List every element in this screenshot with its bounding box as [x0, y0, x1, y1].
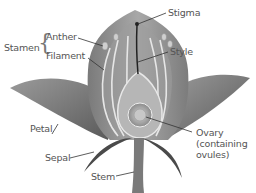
label-stigma: Stigma [168, 8, 200, 18]
sepal-left [84, 138, 132, 172]
flower-illustration [0, 0, 256, 193]
label-petal: Petal [30, 124, 52, 134]
label-stamen: Stamen [4, 43, 40, 53]
label-sepal: Sepal [45, 153, 70, 163]
label-filament: Filament [46, 51, 85, 61]
label-ovary-containing: (containing [196, 139, 247, 149]
label-style: Style [170, 47, 193, 57]
label-anther: Anther [46, 32, 77, 42]
label-stem: Stem [91, 172, 115, 182]
sepal-right [142, 138, 182, 178]
label-ovary-ovules: ovules) [196, 150, 229, 160]
label-ovary: Ovary [196, 128, 223, 138]
stem [132, 138, 144, 193]
